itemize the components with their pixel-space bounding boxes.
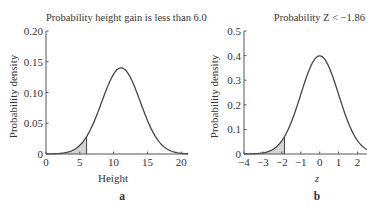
y-tick-label: 0 [236, 148, 242, 160]
y-tick-label: 0.20 [24, 25, 44, 37]
x-tick-label: −3 [257, 156, 269, 168]
x-tick-label: 1 [336, 156, 342, 168]
y-tick-label: 0.15 [24, 56, 44, 68]
chart-panel-b: −4−3−2−101200.10.20.30.40.5Probability Z… [208, 12, 367, 202]
figure: 0510152000.050.100.150.20Probability hei… [0, 0, 367, 207]
chart-title: Probability Z < −1.86 [274, 12, 365, 23]
x-tick-label: −2 [276, 156, 288, 168]
x-tick-label: 20 [176, 156, 188, 168]
chart-title: Probability height gain is less than 6.0 [46, 12, 207, 23]
x-tick-label: 5 [77, 156, 83, 168]
x-axis-label: z [314, 172, 320, 184]
y-tick-label: 0.1 [227, 123, 241, 135]
y-tick-label: 0.5 [227, 25, 241, 37]
chart-panel-a: 0510152000.050.100.150.20Probability hei… [7, 12, 207, 202]
density-curve [244, 56, 367, 154]
x-tick-label: 0 [43, 156, 49, 168]
x-axis-label: Height [98, 172, 128, 184]
y-tick-label: 0.3 [227, 74, 241, 86]
panel-label: a [119, 190, 125, 202]
x-tick-label: 0 [317, 156, 323, 168]
y-tick-label: 0.10 [24, 87, 44, 99]
y-tick-label: 0.4 [227, 50, 241, 62]
panel-label: b [314, 190, 320, 202]
y-axis-label: Probability density [7, 54, 19, 138]
y-axis-label: Probability density [208, 54, 220, 138]
x-tick-label: 2 [355, 156, 361, 168]
y-tick-label: 0 [38, 148, 44, 160]
density-curve [46, 68, 188, 154]
y-tick-label: 0.2 [227, 99, 241, 111]
x-tick-label: 15 [142, 156, 154, 168]
x-tick-label: −1 [295, 156, 307, 168]
y-tick-label: 0.05 [24, 117, 44, 129]
x-tick-label: 10 [108, 156, 120, 168]
